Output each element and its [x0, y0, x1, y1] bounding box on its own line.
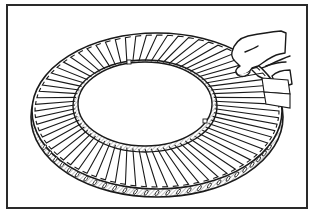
- locating-tab: [127, 60, 131, 64]
- locating-tab: [203, 119, 207, 123]
- removed-vane-segments: [262, 78, 290, 108]
- inner-shroud: [73, 60, 217, 152]
- vane-ring-illustration: [0, 0, 314, 215]
